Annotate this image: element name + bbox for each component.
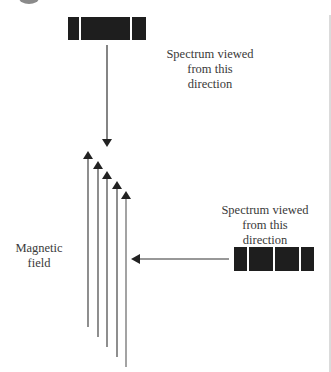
top-view-label: Spectrum viewed from this direction bbox=[157, 47, 263, 92]
spectrum-line-segment bbox=[68, 17, 79, 40]
spectrum-line-segment bbox=[132, 17, 146, 40]
label-line: Magnetic bbox=[5, 241, 73, 256]
side-spectrum-bar bbox=[234, 247, 314, 271]
side-view-arrow bbox=[131, 254, 229, 264]
field-arrow bbox=[102, 171, 112, 347]
spectrum-line-segment bbox=[81, 17, 130, 40]
top-spectrum-bar bbox=[68, 17, 146, 40]
corner-circle-icon bbox=[19, 0, 39, 4]
zeeman-effect-diagram: Spectrum viewed from this direction Spec… bbox=[0, 0, 331, 372]
field-arrow bbox=[112, 181, 122, 357]
field-arrow bbox=[83, 151, 93, 327]
magnetic-field-arrows bbox=[83, 151, 131, 367]
spectrum-line-segment bbox=[234, 247, 247, 271]
spectrum-line-segment bbox=[249, 247, 273, 271]
label-line: field bbox=[5, 256, 73, 271]
arrow-up-icon bbox=[102, 171, 112, 179]
label-line: direction bbox=[157, 77, 263, 92]
arrow-up-icon bbox=[93, 161, 103, 169]
arrow-up-icon bbox=[112, 181, 122, 189]
side-view-label: Spectrum viewed from this direction bbox=[208, 203, 322, 248]
field-arrow bbox=[121, 191, 131, 367]
magnetic-field-label: Magnetic field bbox=[5, 241, 73, 271]
spectrum-line-segment bbox=[301, 247, 314, 271]
arrow-down-icon bbox=[102, 139, 112, 147]
top-view-arrow bbox=[102, 45, 112, 147]
arrow-up-icon bbox=[83, 151, 93, 159]
spectrum-line-segment bbox=[275, 247, 299, 271]
label-line: from this bbox=[208, 218, 322, 233]
arrow-left-icon bbox=[131, 254, 140, 264]
label-line: Spectrum viewed bbox=[208, 203, 322, 218]
field-arrow bbox=[93, 161, 103, 337]
label-line: direction bbox=[208, 233, 322, 248]
label-line: from this bbox=[157, 62, 263, 77]
label-line: Spectrum viewed bbox=[157, 47, 263, 62]
arrow-up-icon bbox=[121, 191, 131, 199]
